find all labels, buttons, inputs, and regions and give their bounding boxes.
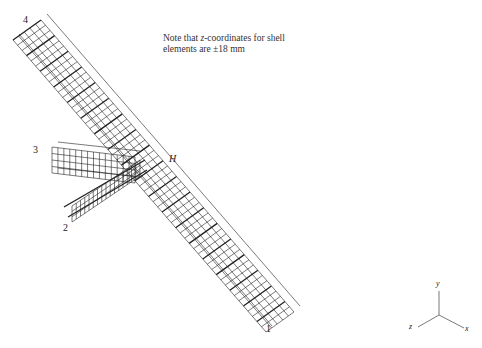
- node-label-4: 4: [23, 15, 28, 25]
- node-label-1: 1: [266, 324, 271, 334]
- axis-label-y: y: [436, 280, 440, 288]
- axis-label-x: x: [465, 325, 469, 333]
- node-label-2: 2: [63, 223, 68, 233]
- annotation-note: Note that z-coordinates for shell elemen…: [163, 33, 333, 55]
- axis-label-z: z: [409, 323, 412, 331]
- node-label-3: 3: [33, 145, 38, 155]
- note-line-2: elements are ±18 mm: [163, 44, 333, 55]
- note-line-1: Note that z-coordinates for shell: [163, 33, 333, 44]
- point-label-H: H: [169, 154, 176, 164]
- fe-mesh-diagram: Note that z-coordinates for shell elemen…: [0, 0, 482, 348]
- axis-triad: [418, 291, 464, 328]
